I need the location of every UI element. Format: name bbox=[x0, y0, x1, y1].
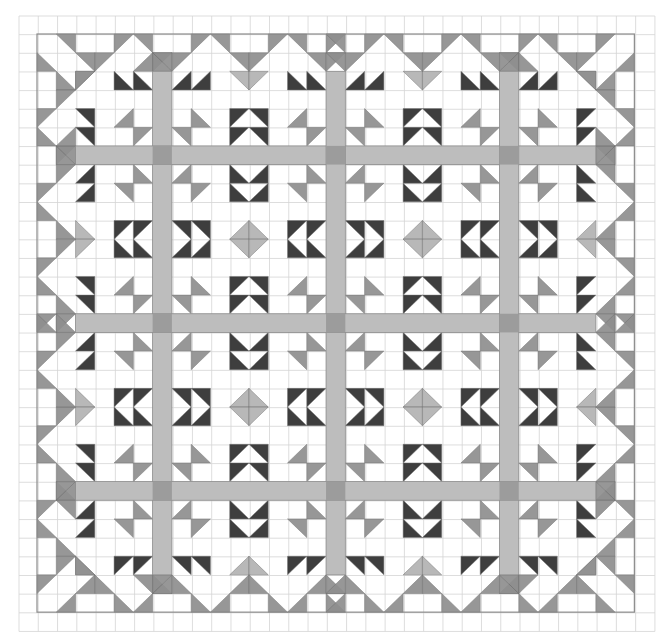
sashing-strips bbox=[76, 71, 596, 575]
quilt-canvas bbox=[0, 0, 671, 644]
